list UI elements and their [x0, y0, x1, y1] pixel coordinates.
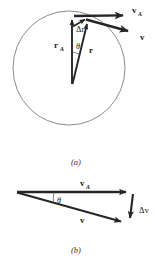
vector-v-a-line: [74, 15, 123, 16]
vector-v-line: [86, 20, 128, 32]
label-r: r: [89, 45, 93, 55]
figure-canvas: r A r Δr θ v A v (a): [0, 0, 163, 262]
label-v-b: v: [80, 215, 85, 225]
physics-figure: r A r Δr θ v A v (a): [0, 0, 163, 262]
label-r-a-subscript: A: [59, 46, 64, 52]
label-theta-a: θ: [76, 42, 80, 51]
circular-path: [13, 11, 125, 125]
panel-a: r A r Δr θ v A v (a): [13, 5, 145, 167]
label-theta-b: θ: [57, 196, 61, 205]
angle-arc-b: [53, 192, 54, 203]
label-delta-r: Δr: [76, 24, 84, 34]
vector-v-b-line: [17, 193, 121, 222]
caption-panel-b: (b): [71, 245, 81, 255]
label-v-a-subscript: A: [137, 11, 142, 17]
vector-delta-v-line: [130, 194, 133, 218]
caption-panel-a: (a): [71, 157, 81, 167]
label-v-a-b-text: v: [80, 178, 85, 188]
label-delta-v: Δv: [139, 205, 149, 215]
panel-b: v A v Δv θ (b): [17, 178, 149, 255]
label-r-a: r A: [54, 40, 64, 52]
label-v-a-text: v: [132, 5, 137, 15]
label-v: v: [140, 32, 145, 42]
label-v-a-b-subscript: A: [85, 184, 90, 190]
angle-arc-a: [72, 52, 79, 54]
label-v-a-b: v A: [80, 178, 90, 190]
label-v-a: v A: [132, 5, 142, 17]
label-r-a-text: r: [54, 40, 58, 50]
